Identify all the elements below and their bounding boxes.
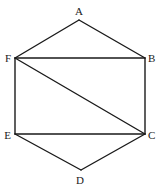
edge-c-d <box>81 134 145 170</box>
edge-d-e <box>15 134 81 170</box>
vertex-label-f: F <box>5 52 11 64</box>
edge-a-b <box>79 20 145 58</box>
vertex-label-e: E <box>4 129 11 141</box>
hexagon-diagram: A B C D E F <box>0 0 158 188</box>
edges-group <box>15 20 145 170</box>
vertex-label-c: C <box>148 129 155 141</box>
edge-f-a <box>15 20 79 58</box>
vertex-label-a: A <box>75 5 83 17</box>
vertex-label-b: B <box>148 52 155 64</box>
diagonal-f-c <box>15 58 145 134</box>
vertex-label-d: D <box>76 174 84 186</box>
